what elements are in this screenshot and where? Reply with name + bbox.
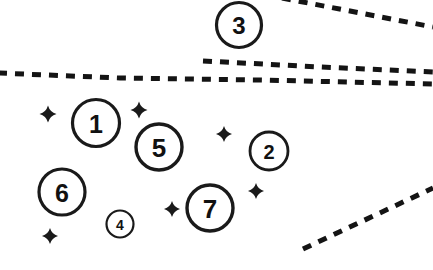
sparkle-icon <box>248 183 264 199</box>
bottom-right-diagonal-boundary <box>303 188 433 249</box>
map-marker-7[interactable]: 7 <box>187 185 233 231</box>
map-marker-6[interactable]: 6 <box>39 169 85 215</box>
map-annotation-canvas: 1234567 <box>0 0 433 270</box>
marker-number-label: 2 <box>263 141 274 163</box>
sparkle-icon <box>164 201 180 217</box>
main-horizontal-boundary <box>0 73 433 84</box>
marker-number-label: 1 <box>89 110 103 138</box>
map-marker-5[interactable]: 5 <box>136 124 182 170</box>
sparkle-icon <box>42 228 58 244</box>
annotation-overlay-svg: 1234567 <box>0 0 433 270</box>
sparkle-icon <box>40 106 57 123</box>
marker-number-label: 7 <box>203 194 217 224</box>
top-right-diagonal-boundary <box>282 0 433 27</box>
marker-number-label: 5 <box>152 133 166 163</box>
marker-number-label: 3 <box>232 12 245 39</box>
map-marker-3[interactable]: 3 <box>217 3 262 48</box>
sparkle-icon <box>216 126 232 142</box>
sparkle-icon <box>131 102 148 119</box>
marker-number-label: 4 <box>116 217 124 233</box>
map-marker-4[interactable]: 4 <box>107 211 134 238</box>
map-marker-1[interactable]: 1 <box>73 100 120 147</box>
marker-number-label: 6 <box>55 179 69 207</box>
map-marker-2[interactable]: 2 <box>250 132 288 170</box>
numbered-markers-group: 1234567 <box>39 3 288 238</box>
upper-horizontal-boundary <box>203 61 433 72</box>
